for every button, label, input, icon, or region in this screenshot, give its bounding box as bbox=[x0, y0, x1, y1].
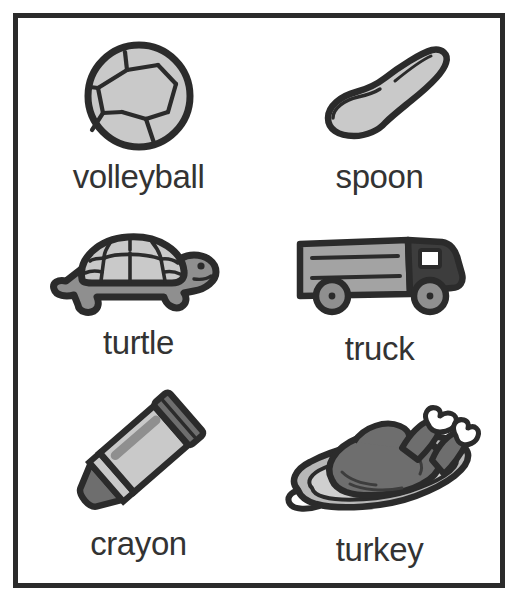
card-label-spoon: spoon bbox=[336, 160, 424, 193]
card-volleyball[interactable]: volleyball bbox=[18, 18, 259, 206]
card-label-turkey: turkey bbox=[336, 533, 423, 566]
volleyball-icon bbox=[18, 40, 259, 152]
card-spoon[interactable]: spoon bbox=[259, 18, 500, 206]
spoon-icon bbox=[259, 36, 500, 148]
card-label-volleyball: volleyball bbox=[73, 160, 205, 193]
card-turtle[interactable]: turtle bbox=[18, 206, 259, 394]
card-crayon[interactable]: crayon bbox=[18, 395, 259, 583]
card-turkey[interactable]: turkey bbox=[259, 395, 500, 583]
truck-icon bbox=[259, 222, 500, 330]
turtle-icon bbox=[18, 216, 259, 324]
worksheet-page: volleyball spoon bbox=[0, 0, 525, 603]
card-truck[interactable]: truck bbox=[259, 206, 500, 394]
page-border-frame: volleyball spoon bbox=[13, 13, 505, 588]
card-label-truck: truck bbox=[345, 332, 415, 365]
crayon-icon bbox=[18, 399, 259, 521]
turkey-icon bbox=[259, 405, 500, 527]
picture-word-grid: volleyball spoon bbox=[18, 18, 500, 583]
card-label-turtle: turtle bbox=[103, 326, 174, 359]
card-label-crayon: crayon bbox=[90, 527, 187, 560]
